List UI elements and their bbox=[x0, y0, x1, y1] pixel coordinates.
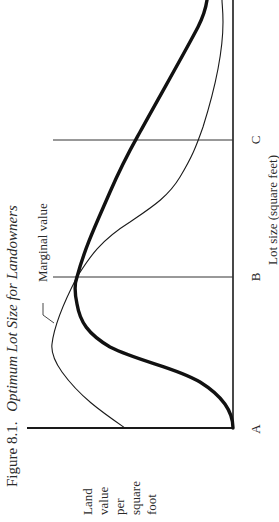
tick-b: B bbox=[248, 272, 263, 281]
figure-number: Figure 8.1. bbox=[4, 422, 20, 487]
y-label-line-3: per bbox=[112, 498, 127, 515]
chart-svg: Figure 8.1. Optimum Lot Size for Landown… bbox=[0, 0, 279, 522]
rotated-figure: Figure 8.1. Optimum Lot Size for Landown… bbox=[0, 0, 279, 522]
marginal-value-leader bbox=[43, 303, 54, 323]
y-label-line-4: square bbox=[128, 481, 143, 515]
y-label-line-2: value bbox=[96, 487, 111, 515]
tick-c: C bbox=[248, 136, 263, 145]
figure-title: Figure 8.1. Optimum Lot Size for Landown… bbox=[4, 205, 20, 487]
marginal-value-label: Marginal value bbox=[35, 203, 50, 282]
y-label-line-1: Land bbox=[80, 488, 95, 515]
marginal-value-curve bbox=[52, 0, 223, 428]
figure-title-text: Optimum Lot Size for Landowners bbox=[4, 205, 20, 412]
x-axis-label: Lot size (square feet) bbox=[265, 155, 279, 265]
y-axis-label: Land value per square foot bbox=[80, 481, 159, 515]
tick-a: A bbox=[248, 424, 263, 434]
average-value-curve bbox=[75, 0, 233, 428]
y-label-line-5: foot bbox=[144, 494, 159, 515]
